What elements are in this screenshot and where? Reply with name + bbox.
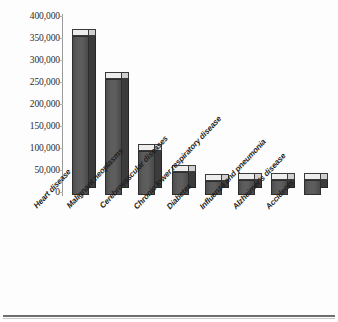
bar-top-face xyxy=(238,173,255,180)
bar-top-face xyxy=(271,173,288,180)
bar-top-bevel xyxy=(189,165,196,172)
bar[interactable] xyxy=(304,173,321,195)
bar-top-face xyxy=(72,29,89,36)
bar-front-face xyxy=(105,79,122,195)
bar-top-bevel xyxy=(122,72,129,79)
bar-front-face xyxy=(304,180,321,195)
chart-page: 400,000 350,000 300,000 250,000 200,000 … xyxy=(0,0,338,322)
bar-front-face xyxy=(72,36,89,195)
bar-top-face xyxy=(304,173,321,180)
bar[interactable] xyxy=(72,29,89,195)
bar-top-face xyxy=(105,72,122,79)
footer-rule-shadow xyxy=(3,318,335,319)
bar-side-face xyxy=(89,29,96,188)
bar[interactable] xyxy=(105,72,122,195)
x-axis-category-labels: Heart diseaseMalignant neoplasmsCerebrov… xyxy=(0,196,338,300)
footer-rule xyxy=(3,315,335,317)
bar-top-bevel xyxy=(89,29,96,36)
bar-top-face xyxy=(205,174,222,181)
plot-area: 400,000 350,000 300,000 250,000 200,000 … xyxy=(0,0,338,300)
bar-top-bevel xyxy=(321,173,328,180)
